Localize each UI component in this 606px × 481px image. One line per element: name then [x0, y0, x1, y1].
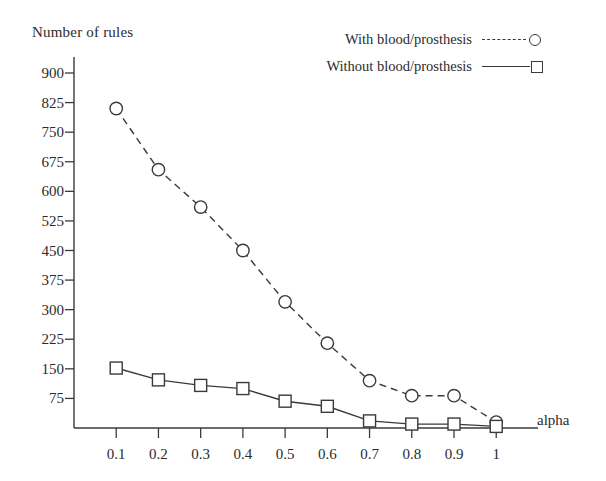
data-point-circle — [321, 337, 333, 349]
data-point-square — [237, 383, 249, 395]
data-point-circle — [152, 163, 164, 175]
plot-area — [0, 0, 606, 481]
data-point-circle — [237, 244, 249, 256]
data-point-square — [110, 362, 122, 374]
data-point-square — [195, 379, 207, 391]
data-point-circle — [194, 201, 206, 213]
chart-container: Number of rules alpha With blood/prosthe… — [0, 0, 606, 481]
data-point-square — [448, 418, 460, 430]
data-point-circle — [110, 102, 122, 114]
data-point-circle — [406, 389, 418, 401]
data-point-circle — [448, 389, 460, 401]
data-point-square — [364, 415, 376, 427]
series-line-0 — [116, 109, 496, 423]
data-point-square — [490, 420, 502, 432]
data-point-circle — [363, 374, 375, 386]
data-point-square — [279, 395, 291, 407]
data-point-circle — [279, 296, 291, 308]
data-point-square — [321, 400, 333, 412]
series-line-1 — [116, 368, 496, 426]
data-point-square — [406, 418, 418, 430]
data-point-square — [152, 374, 164, 386]
